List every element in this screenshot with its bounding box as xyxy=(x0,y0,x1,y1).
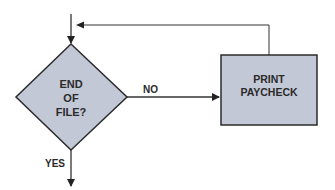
process-line-1: PRINT xyxy=(253,73,285,85)
decision-line-1: END xyxy=(59,78,82,90)
decision-line-2: OF xyxy=(63,92,79,104)
loop-arrowhead xyxy=(76,22,84,29)
decision-line-3: FILE? xyxy=(56,106,87,118)
process-line-2: PAYCHECK xyxy=(240,86,298,98)
flowchart: END OF FILE? NO PRINT PAYCHECK YES xyxy=(0,0,335,190)
yes-label: YES xyxy=(45,158,65,169)
no-label: NO xyxy=(143,84,158,95)
loop-back-connector xyxy=(78,25,269,55)
